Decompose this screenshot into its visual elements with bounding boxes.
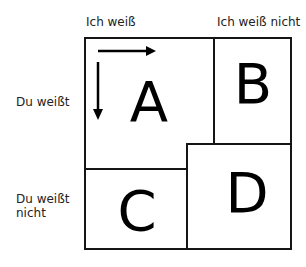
arrow-down-icon — [93, 62, 103, 120]
arrow-right-icon — [98, 46, 156, 56]
quadrant-letter-a: A — [124, 74, 174, 130]
quadrant-letter-b: B — [226, 56, 280, 112]
quadrant-letter-d: D — [220, 165, 274, 221]
quadrant-letter-c: C — [112, 183, 162, 239]
